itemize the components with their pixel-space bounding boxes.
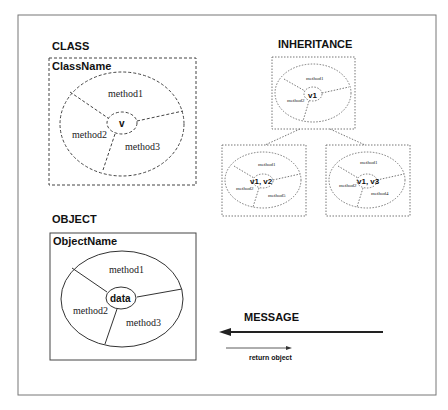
return-arrow-head-icon: [286, 346, 292, 350]
inherit-connector-left: [265, 129, 300, 145]
oop-diagram: CLASS ClassName v method1 method2 method…: [0, 0, 448, 410]
return-object-label: return object: [249, 354, 292, 362]
class-section: CLASS ClassName v method1 method2 method…: [49, 40, 196, 185]
object-name-label: ObjectName: [53, 235, 117, 247]
inheritance-section: INHERITANCE v1 method1 method2 v1, v2 me…: [222, 38, 410, 216]
outer-frame: [18, 15, 436, 395]
parent-method2: method2: [287, 98, 305, 103]
parent-center-var: v1: [308, 91, 317, 100]
object-method2: method2: [73, 305, 108, 316]
child2-center-vars: v1, v3: [357, 177, 380, 186]
class-method3: method3: [125, 141, 160, 152]
object-center-data: data: [110, 293, 131, 304]
parent-class: v1 method1 method2: [272, 57, 355, 129]
message-title: MESSAGE: [244, 311, 299, 323]
object-method3: method3: [126, 317, 161, 328]
class-name-label: ClassName: [52, 60, 111, 72]
child2-method1: method1: [360, 160, 378, 165]
class-method1: method1: [108, 88, 143, 99]
inherit-connector-right: [330, 129, 365, 145]
child1-method1: method1: [258, 162, 276, 167]
class-center-var: v: [119, 118, 125, 129]
object-title: OBJECT: [52, 213, 97, 225]
object-method1: method1: [109, 264, 144, 275]
parent-method1: method1: [306, 76, 324, 81]
child-class-1: v1, v2 method1 method2 method5: [222, 145, 306, 216]
class-method2: method2: [72, 129, 107, 140]
inheritance-title: INHERITANCE: [278, 38, 352, 50]
child-class-2: v1, v3 method1 method2 method4: [326, 145, 410, 216]
child2-method2: method2: [339, 183, 357, 188]
child1-center-vars: v1, v2: [250, 177, 273, 186]
class-title: CLASS: [52, 40, 89, 52]
child1-method5: method5: [268, 193, 286, 198]
message-arrow-head-icon: [219, 328, 231, 336]
object-section: OBJECT ObjectName data method1 method2 m…: [50, 213, 196, 360]
message-section: MESSAGE return object: [219, 311, 383, 362]
child1-method2: method2: [236, 186, 254, 191]
child2-method4: method4: [371, 191, 389, 196]
